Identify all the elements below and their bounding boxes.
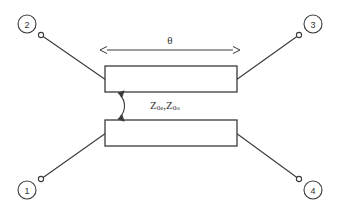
impedance-label: Z0e,Z0o [150,99,180,112]
connection-port-4 [236,133,299,179]
svg-text:Z0e,Z0o: Z0e,Z0o [150,99,180,112]
upper-coupled-line [105,66,237,92]
electrical-length-dimension: θ [107,34,233,50]
port-4-label: 4 [310,186,315,196]
theta-label: θ [167,34,172,46]
connection-port-1 [41,133,106,179]
port-4: 4 [304,181,322,199]
terminal-port-2 [38,32,43,37]
lower-coupled-line [105,120,237,146]
port-1: 1 [18,181,36,199]
connection-port-2 [41,35,106,80]
port-1-label: 1 [24,186,29,196]
impedance-subscript-even: 0e [157,104,164,112]
coupled-line-coupler-diagram: θ Z0e,Z0o 2 3 [0,0,339,214]
connection-port-3 [236,35,299,80]
coupling-gap-arrow [120,95,125,117]
port-3: 3 [304,15,322,33]
coupling-arrow-curve [120,95,125,117]
port-2: 2 [18,15,36,33]
port-2-label: 2 [24,20,29,30]
terminal-port-4 [296,176,301,181]
port-3-label: 3 [310,20,315,30]
terminal-port-3 [296,32,301,37]
terminal-port-1 [38,176,43,181]
impedance-subscript-odd: 0o [173,104,181,112]
